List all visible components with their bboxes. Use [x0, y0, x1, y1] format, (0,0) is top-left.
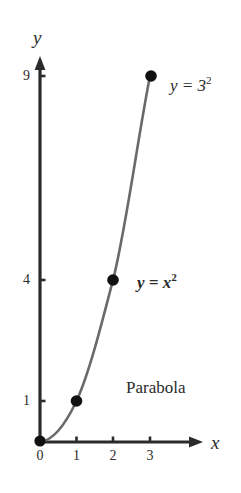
x-axis-arrowhead [189, 437, 203, 448]
annotation-top-exponent: 2 [206, 74, 212, 86]
x-axis-label: x [211, 433, 219, 452]
y-tick-label-4: 4 [14, 273, 30, 287]
y-tick-label-9: 9 [14, 69, 30, 83]
x-tick-label-3: 3 [142, 449, 158, 463]
data-point-2-4 [107, 274, 119, 286]
parabola-figure: y x 9 4 1 0 1 2 3 y = 32 y = x2 Parabola [0, 0, 241, 493]
x-tick-label-2: 2 [105, 449, 121, 463]
annotation-mid-exponent: 2 [171, 271, 177, 283]
x-tick-label-0: 0 [32, 449, 48, 463]
x-tick-label-1: 1 [69, 449, 85, 463]
y-tick-label-1: 1 [14, 394, 30, 408]
parabola-caption: Parabola [126, 379, 185, 396]
y-axis-label: y [33, 28, 41, 47]
data-point-0-0 [34, 435, 45, 446]
annotation-mid-base: y = x [137, 273, 171, 292]
data-point-1-1 [71, 395, 83, 407]
parabola-plot-svg [0, 0, 241, 493]
data-point-3-9 [145, 70, 157, 82]
annotation-y-equals-x-squared: y = x2 [137, 272, 177, 291]
y-axis-arrowhead [35, 56, 46, 70]
annotation-y-equals-3-squared: y = 32 [170, 75, 212, 94]
annotation-top-base: y = 3 [170, 76, 206, 95]
